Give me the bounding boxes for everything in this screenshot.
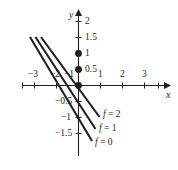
curve-label-f0: f = 0 bbox=[95, 138, 113, 148]
y-tick-label-1_5: 1.5 bbox=[85, 33, 97, 43]
x-tick-label--2: −2 bbox=[50, 70, 60, 80]
x-tick-label-1: 1 bbox=[98, 70, 103, 80]
y-tick-label--1: −1 bbox=[61, 113, 71, 123]
y-tick-label-0_5: 0.5 bbox=[85, 65, 97, 75]
curve-label-f2-eq: = 2 bbox=[106, 109, 121, 119]
curve-label-f1: f = 1 bbox=[99, 124, 117, 134]
marked-points-group bbox=[75, 50, 82, 89]
curve-label-f0-eq: = 0 bbox=[98, 137, 113, 147]
y-tick-label--0_5: −0.5 bbox=[55, 97, 72, 107]
curve-f0 bbox=[30, 37, 92, 141]
x-axis-arrow bbox=[164, 82, 171, 89]
x-tick-label-3: 3 bbox=[142, 70, 147, 80]
y-tick-label-1: 1 bbox=[85, 49, 90, 59]
y-tick-label-2: 2 bbox=[85, 17, 90, 27]
y-axis-arrow bbox=[75, 9, 82, 16]
x-tick-label-2: 2 bbox=[120, 70, 125, 80]
y-axis-label: y bbox=[69, 10, 73, 20]
level-curve-plot: y x −3 −2 −1 1 2 3 2 1.5 1 0.5 −0.5 −1 −… bbox=[0, 0, 178, 170]
x-tick-label--1: −1 bbox=[64, 70, 74, 80]
point-0-0 bbox=[75, 82, 82, 89]
curve-label-f1-eq: = 1 bbox=[102, 123, 117, 133]
x-axis-label: x bbox=[166, 90, 170, 100]
point-0-0_5 bbox=[75, 66, 82, 73]
x-tick-label--3: −3 bbox=[28, 70, 38, 80]
curve-label-f2: f = 2 bbox=[103, 110, 121, 120]
point-0-1 bbox=[75, 50, 82, 57]
y-tick-label--1_5: −1.5 bbox=[55, 129, 72, 139]
